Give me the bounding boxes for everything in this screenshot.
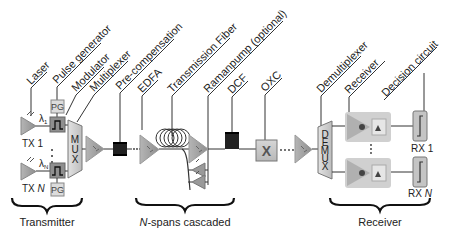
label-oxc: OXC	[258, 68, 283, 140]
span-block: X	[86, 129, 318, 190]
spans-brace	[136, 198, 234, 211]
dcf-spool-icon	[225, 133, 239, 149]
svg-text:PG: PG	[51, 102, 64, 112]
svg-text:λ1: λ1	[39, 113, 48, 125]
section-label-receiver: Receiver	[358, 216, 402, 228]
transmitter-brace	[12, 198, 82, 212]
svg-text:Laser: Laser	[24, 58, 52, 86]
laser-icon	[21, 117, 36, 135]
label-dcf: DCF	[225, 71, 250, 132]
raman-pump-icon	[192, 175, 205, 189]
label-edfa: EDFA	[135, 65, 164, 130]
svg-text:X: X	[262, 143, 272, 159]
label-transmission-fiber: Transmission Fiber	[165, 20, 240, 136]
label-decision-circuit: Decision circuit	[379, 38, 440, 111]
section-label-transmitter: Transmitter	[19, 216, 75, 228]
modulator-icon	[50, 163, 65, 178]
svg-text:TX N: TX N	[22, 183, 46, 194]
optical-system-diagram: Laser Pulse generator Modulator Multiple…	[0, 0, 453, 237]
label-laser: Laser	[24, 58, 52, 116]
svg-text:PG: PG	[51, 185, 64, 195]
raman-pump-icon	[192, 163, 205, 177]
svg-text:X: X	[322, 161, 329, 172]
pre-compensation-fiber-spool-icon	[113, 143, 127, 155]
receiver-block: D E M U X RX 1 RX N	[318, 111, 434, 199]
transmission-fiber-coil-icon	[156, 129, 190, 147]
section-label-spans: N-spans cascaded	[139, 216, 230, 228]
svg-text:Decision circuit: Decision circuit	[379, 38, 440, 99]
svg-text:X: X	[72, 154, 79, 165]
receiver-brace	[330, 198, 430, 211]
booster-amplifier-icon	[86, 136, 104, 162]
modulator-icon	[50, 117, 65, 132]
laser-icon	[21, 163, 36, 180]
svg-text:RX N: RX N	[408, 188, 433, 199]
svg-text:TX 1: TX 1	[22, 138, 44, 149]
svg-text:RX 1: RX 1	[411, 143, 434, 154]
svg-text:λN: λN	[39, 158, 48, 170]
